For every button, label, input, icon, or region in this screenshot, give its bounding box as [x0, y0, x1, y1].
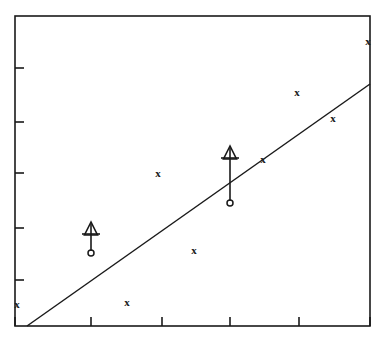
data-point-x: x [330, 112, 336, 124]
data-point-x: x [365, 35, 371, 47]
data-point-x: x [155, 167, 161, 179]
detection-markers: xxxxxxxx [14, 35, 371, 310]
fit-line [27, 84, 370, 326]
data-point-x: x [260, 153, 266, 165]
data-point-x: x [124, 296, 130, 308]
plot-border [15, 16, 370, 326]
axes-frame [15, 16, 370, 326]
x-axis-ticks [15, 317, 370, 326]
data-point-x: x [14, 298, 20, 310]
upper-limit-marker [82, 222, 100, 256]
data-point-x: x [191, 244, 197, 256]
data-point-x: x [294, 86, 300, 98]
plot-canvas: xxxxxxxx [0, 0, 389, 343]
upper-limit-marker [221, 146, 239, 206]
scatter-plot-figure: xxxxxxxx [0, 0, 389, 343]
regression-line [27, 84, 370, 326]
y-axis-ticks [15, 68, 24, 280]
